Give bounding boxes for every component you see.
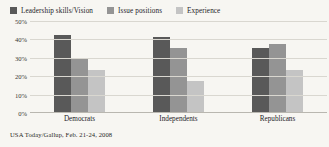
legend-item-experience: Experience — [176, 7, 220, 15]
legend-swatch-experience — [176, 7, 183, 14]
gridline — [30, 76, 327, 77]
bar — [153, 37, 170, 112]
y-axis-tick-label: 50% — [15, 18, 27, 25]
y-axis-tick-label: 40% — [15, 36, 27, 43]
x-axis-category-label: Democrats — [54, 115, 105, 124]
bar-groups: DemocratsIndependentsRepublicans — [30, 21, 327, 112]
legend-label-experience: Experience — [187, 7, 220, 15]
legend-label-issue-positions: Issue positions — [118, 7, 162, 15]
chart-plot-area: 50%40%30%20%10%0% DemocratsIndependentsR… — [0, 21, 329, 126]
bar — [187, 81, 204, 112]
gridline — [30, 39, 327, 40]
axis-baseline — [30, 112, 327, 113]
bar-group: Democrats — [54, 21, 105, 112]
bar — [269, 44, 286, 112]
legend-item-leadership: Leadership skills/Vision — [10, 7, 93, 15]
gridline — [30, 95, 327, 96]
y-axis-tick-label: 10% — [15, 91, 27, 98]
plot-canvas: DemocratsIndependentsRepublicans — [30, 21, 327, 113]
y-axis-tick-label: 0% — [18, 110, 27, 117]
legend-label-leadership: Leadership skills/Vision — [21, 7, 93, 15]
source-note: USA Today/Gallup, Feb. 21-24, 2008 — [10, 131, 112, 139]
x-axis-category-label: Republicans — [252, 115, 303, 124]
bar-group: Independents — [153, 21, 204, 112]
y-axis-tick-label: 20% — [15, 73, 27, 80]
legend-item-issue-positions: Issue positions — [107, 7, 162, 15]
legend-swatch-issue-positions — [107, 7, 114, 14]
legend-swatch-leadership — [10, 7, 17, 14]
x-axis-category-label: Independents — [153, 115, 204, 124]
y-axis: 50%40%30%20%10%0% — [0, 21, 30, 113]
gridline — [30, 21, 327, 22]
y-axis-tick-label: 30% — [15, 54, 27, 61]
bar — [54, 35, 71, 112]
bar-group: Republicans — [252, 21, 303, 112]
gridline — [30, 58, 327, 59]
chart-legend: Leadership skills/Vision Issue positions… — [0, 0, 329, 16]
bar — [71, 59, 88, 112]
